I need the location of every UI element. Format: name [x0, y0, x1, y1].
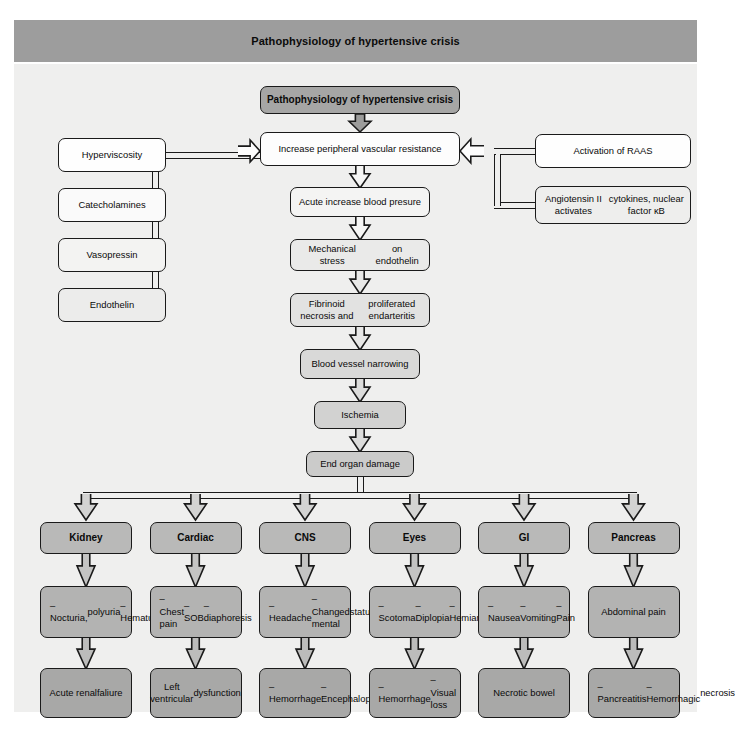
box-line: – Chest pain — [160, 593, 184, 630]
organ-symptoms-3: – Scotoma– Diplopia– Hemianopsia — [369, 586, 461, 638]
box-line: Abdominal pain — [601, 606, 666, 618]
organ-header-1: Cardiac — [150, 522, 242, 554]
page-header-title: Pathophysiology of hypertensive crisis — [251, 35, 460, 47]
box-line: Fibrinoid necrosis and — [295, 298, 359, 323]
organ-symptoms-5: Abdominal pain — [588, 586, 680, 638]
box-line: proliferated endarteritis — [359, 298, 425, 323]
right-factor-0: Activation of RAAS — [535, 134, 691, 168]
organ-outcome-2: – Hemorrhage– Encephalopathy — [259, 668, 351, 718]
box-line: Hyperviscosity — [82, 149, 142, 161]
left-factor-0: Hyperviscosity — [58, 138, 166, 172]
box-line: faliure — [97, 687, 123, 699]
box-line: – Headache — [269, 600, 312, 625]
box-line: Catecholamines — [78, 199, 145, 211]
box-line: on endothelin — [369, 243, 425, 268]
box-line: Left ventricular — [150, 681, 193, 706]
box-line: Activation of RAAS — [573, 145, 652, 157]
organ-outcome-1: Left ventriculardysfunction — [150, 668, 242, 718]
box-line: Vasopressin — [87, 249, 138, 261]
box-line: polyuria — [88, 606, 121, 618]
box-line: – Visual loss — [431, 674, 456, 711]
box-line: cytokines, nuclear factor κB — [607, 193, 686, 218]
box-line: – Pancreatitis — [598, 681, 647, 706]
chain-box-4: Blood vessel narrowing — [300, 349, 420, 379]
organ-header-2: CNS — [259, 522, 351, 554]
organ-symptoms-1: – Chest pain– SOB– diaphoresis — [150, 586, 242, 638]
organ-header-3: Eyes — [369, 522, 461, 554]
box-line: GI — [519, 531, 530, 544]
box-line: Blood vessel narrowing — [312, 358, 409, 370]
box-line: – Diplopia — [416, 600, 450, 625]
box-line: Endothelin — [90, 299, 134, 311]
chain-box-6: End organ damage — [306, 451, 414, 477]
chain-box-0: Increase peripheral vascular resistance — [260, 132, 460, 166]
organ-symptoms-4: – Nausea– Vomiting– Pain — [478, 586, 570, 638]
chain-box-3: Fibrinoid necrosis andproliferated endar… — [290, 293, 430, 327]
organ-header-5: Pancreas — [588, 522, 680, 554]
box-line: Increase peripheral vascular resistance — [278, 143, 441, 155]
box-line: Cardiac — [177, 531, 214, 544]
organ-header-4: GI — [478, 522, 570, 554]
chain-box-2: Mechanical stresson endothelin — [290, 239, 430, 271]
box-line: – Changed mental — [312, 593, 350, 630]
box-line: Eyes — [403, 531, 426, 544]
organ-outcome-4: Necrotic bowel — [478, 668, 570, 718]
box-line: Ischemia — [341, 409, 379, 421]
organ-outcome-0: Acute renalfaliure — [40, 668, 132, 718]
left-factor-2: Vasopressin — [58, 238, 166, 272]
box-line: Kidney — [69, 531, 102, 544]
box-line: dysfunction — [193, 687, 240, 699]
box-line: – Nocturia, — [50, 600, 88, 625]
chain-box-1: Acute increase blood presure — [290, 187, 430, 217]
organ-outcome-3: – Hemorrhage– Visual loss — [369, 668, 461, 718]
left-factor-1: Catecholamines — [58, 188, 166, 222]
box-line: CNS — [294, 531, 315, 544]
box-line: Pathophysiology of hypertensive crisis — [267, 93, 453, 106]
box-line: – Hemorrhagic — [646, 681, 700, 706]
box-line: Necrotic bowel — [493, 687, 554, 699]
left-factor-3: Endothelin — [58, 288, 166, 322]
box-line: Acute renal — [50, 687, 97, 699]
diagram-panel: Pathophysiology of hypertensive crisisIn… — [14, 64, 697, 712]
box-line: – diaphoresis — [204, 600, 252, 625]
box-line: – Hemorrhage — [269, 681, 321, 706]
organ-outcome-5: – Pancreatitis– Hemorrhagic necrosis — [588, 668, 680, 718]
box-line: – Hemorrhage — [379, 681, 431, 706]
box-line: – Scotoma — [379, 600, 416, 625]
box-line: End organ damage — [320, 458, 400, 470]
box-line: – Nausea — [488, 600, 520, 625]
organ-symptoms-0: – Nocturia, polyuria– Hematuria — [40, 586, 132, 638]
box-line: Pancreas — [611, 531, 655, 544]
right-factor-1: Angiotensin II activatescytokines, nucle… — [535, 186, 691, 224]
title-box: Pathophysiology of hypertensive crisis — [260, 86, 460, 114]
box-line: – SOB — [184, 600, 204, 625]
organ-symptoms-2: – Headache– Changed mental status — [259, 586, 351, 638]
box-line: Mechanical stress — [295, 243, 369, 268]
organ-header-0: Kidney — [40, 522, 132, 554]
box-line: necrosis — [700, 687, 735, 699]
box-line: – Vomiting — [520, 600, 556, 625]
box-line: – Pain — [556, 600, 575, 625]
box-line: Angiotensin II activates — [540, 193, 607, 218]
box-line: Acute increase blood presure — [299, 196, 421, 208]
page-header: Pathophysiology of hypertensive crisis — [14, 20, 697, 62]
chain-box-5: Ischemia — [314, 401, 406, 429]
